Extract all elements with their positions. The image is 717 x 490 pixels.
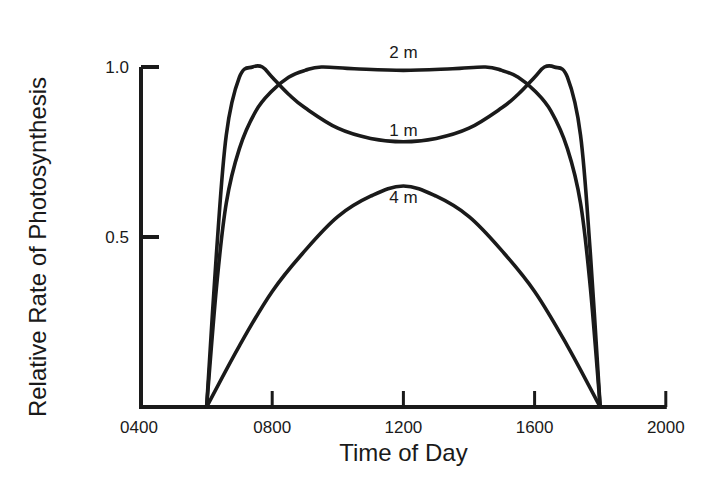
- x-tick-label: 2000: [647, 418, 685, 437]
- x-tick-label: 1600: [516, 418, 554, 437]
- x-tick-label: 1200: [384, 418, 422, 437]
- curve-4m: [207, 186, 601, 407]
- curve-2m: [207, 67, 601, 407]
- photosynthesis-chart: 0.51.004000800120016002000Time of DayRel…: [0, 0, 717, 490]
- x-tick-label: 0400: [120, 418, 158, 437]
- y-tick-label: 1.0: [105, 58, 129, 77]
- y-tick-label: 0.5: [105, 228, 129, 247]
- curves: [207, 66, 601, 407]
- series-label-2m: 2 m: [389, 43, 417, 62]
- series-label-1m: 1 m: [389, 121, 417, 140]
- x-tick-label: 0800: [253, 418, 291, 437]
- x-axis-title: Time of Day: [339, 439, 467, 466]
- y-axis-title: Relative Rate of Photosynthesis: [24, 77, 51, 417]
- curve-1m: [207, 66, 601, 407]
- series-label-4m: 4 m: [389, 188, 417, 207]
